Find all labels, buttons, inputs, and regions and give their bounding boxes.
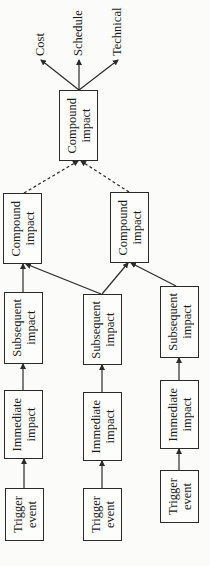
arrow-sub2-compound1: [26, 264, 101, 294]
arrow-to-cost: [41, 60, 79, 90]
node-label: Trigger event: [166, 478, 194, 515]
node-label: Immediate impact: [166, 388, 194, 441]
node-label: Compound impact: [116, 200, 144, 256]
outcome-schedule-label: Schedule: [72, 5, 85, 56]
subsequent-impact-node-3: Subsequent impact: [160, 286, 199, 358]
node-label: Subsequent impact: [10, 299, 38, 357]
trigger-event-node-1: Trigger event: [5, 488, 44, 541]
node-label: Immediate impact: [10, 398, 38, 451]
immediate-impact-node-1: Immediate impact: [4, 390, 43, 459]
subsequent-impact-node-1: Subsequent impact: [4, 292, 43, 364]
outcome-cost-label: Cost: [34, 28, 47, 56]
outcome-technical-label: Technical: [111, 2, 124, 56]
node-label: Trigger event: [11, 496, 39, 533]
trigger-event-node-3: Trigger event: [160, 470, 199, 523]
node-label: Compound impact: [9, 201, 37, 257]
arrow-sub3-compound2: [131, 263, 176, 286]
subsequent-impact-node-2: Subsequent impact: [83, 294, 122, 365]
final-compound-impact-node: Compound impact: [59, 90, 98, 161]
dashed-arrow-compound2-final: [81, 161, 129, 192]
node-label: Compound impact: [65, 98, 93, 154]
compound-impact-node-2: Compound impact: [110, 192, 149, 263]
immediate-impact-node-2: Immediate impact: [83, 392, 122, 461]
node-label: Subsequent impact: [166, 293, 194, 351]
node-label: Immediate impact: [89, 400, 117, 453]
arrow-to-technical: [79, 60, 118, 90]
trigger-event-node-2: Trigger event: [83, 488, 122, 541]
dashed-arrow-compound1-final: [24, 161, 78, 193]
node-label: Subsequent impact: [89, 301, 117, 359]
arrow-sub2-compound2: [102, 263, 128, 294]
node-label: Trigger event: [89, 496, 117, 533]
compound-impact-node-1: Compound impact: [3, 193, 42, 264]
immediate-impact-node-3: Immediate impact: [160, 380, 199, 449]
